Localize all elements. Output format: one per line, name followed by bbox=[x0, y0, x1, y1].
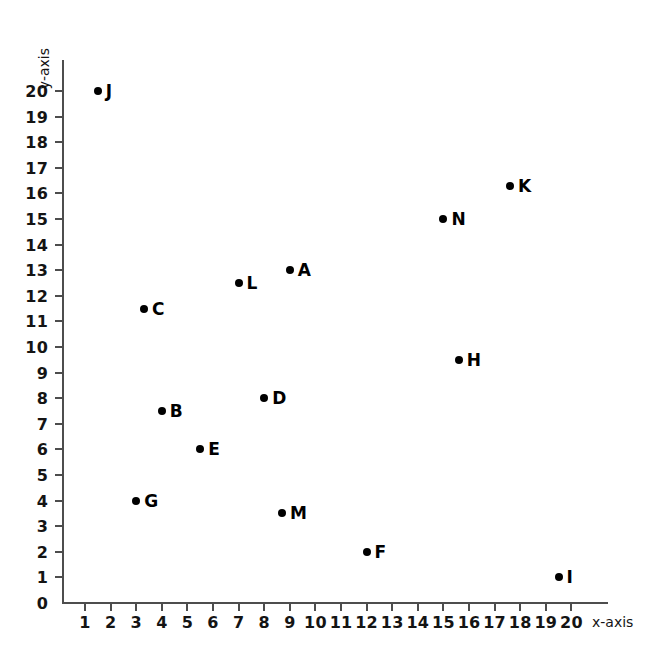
y-axis-tick bbox=[55, 346, 62, 348]
data-point-marker bbox=[506, 182, 514, 190]
x-axis-tick-label: 17 bbox=[483, 613, 506, 632]
x-axis-tick-label: 9 bbox=[284, 613, 295, 632]
x-axis-tick bbox=[468, 604, 470, 611]
x-axis-tick bbox=[135, 604, 137, 611]
y-axis-tick-label: 10 bbox=[25, 338, 48, 357]
x-axis-tick bbox=[570, 604, 572, 611]
y-axis-tick bbox=[55, 295, 62, 297]
data-point-l[interactable]: L bbox=[235, 279, 243, 287]
data-point-marker bbox=[132, 497, 140, 505]
data-point-marker bbox=[158, 407, 166, 415]
y-axis-tick-label: 15 bbox=[25, 210, 48, 229]
data-point-label: H bbox=[467, 349, 481, 369]
data-point-marker bbox=[94, 87, 102, 95]
data-point-k[interactable]: K bbox=[506, 182, 514, 190]
y-axis-tick bbox=[55, 141, 62, 143]
x-axis-tick-label: 1 bbox=[79, 613, 90, 632]
x-axis-tick bbox=[289, 604, 291, 611]
y-axis-tick bbox=[55, 167, 62, 169]
x-axis-tick-label: 15 bbox=[432, 613, 455, 632]
y-axis-tick-label: 4 bbox=[37, 491, 48, 510]
x-axis-tick-label: 13 bbox=[381, 613, 404, 632]
data-point-d[interactable]: D bbox=[260, 394, 268, 402]
y-axis-tick-label: 20 bbox=[25, 82, 48, 101]
data-point-marker bbox=[196, 445, 204, 453]
y-axis-tick-label: 7 bbox=[37, 414, 48, 433]
y-axis-tick bbox=[55, 372, 62, 374]
x-axis-tick bbox=[84, 604, 86, 611]
x-axis-tick-label: 12 bbox=[355, 613, 378, 632]
y-axis-tick-label: 18 bbox=[25, 133, 48, 152]
x-axis-tick bbox=[263, 604, 265, 611]
y-axis-tick bbox=[55, 423, 62, 425]
data-point-c[interactable]: C bbox=[140, 305, 148, 313]
x-axis-tick bbox=[545, 604, 547, 611]
x-axis-tick-label: 7 bbox=[233, 613, 244, 632]
y-axis-tick-label: 12 bbox=[25, 286, 48, 305]
data-point-marker bbox=[235, 279, 243, 287]
x-axis-tick-label: 8 bbox=[259, 613, 270, 632]
y-axis-tick bbox=[55, 474, 62, 476]
data-point-n[interactable]: N bbox=[439, 215, 447, 223]
y-axis-tick-label: 5 bbox=[37, 466, 48, 485]
y-axis-tick bbox=[55, 244, 62, 246]
y-axis-tick bbox=[55, 320, 62, 322]
x-axis-tick bbox=[442, 604, 444, 611]
x-axis-tick bbox=[110, 604, 112, 611]
y-axis-tick-label: 8 bbox=[37, 389, 48, 408]
scatter-plot-figure: y-axis x-axis 01234567891011121314151617… bbox=[0, 0, 661, 661]
data-point-label: G bbox=[144, 490, 158, 510]
data-point-m[interactable]: M bbox=[278, 509, 286, 517]
data-point-b[interactable]: B bbox=[158, 407, 166, 415]
y-axis-tick-label: 1 bbox=[37, 568, 48, 587]
x-axis-title: x-axis bbox=[592, 614, 633, 630]
data-point-label: A bbox=[298, 260, 311, 280]
y-axis-tick bbox=[55, 576, 62, 578]
data-point-a[interactable]: A bbox=[286, 266, 294, 274]
data-point-marker bbox=[455, 356, 463, 364]
data-point-g[interactable]: G bbox=[132, 497, 140, 505]
y-axis-tick bbox=[55, 116, 62, 118]
data-point-e[interactable]: E bbox=[196, 445, 204, 453]
x-axis-tick-label: 4 bbox=[156, 613, 167, 632]
y-axis-tick bbox=[55, 218, 62, 220]
x-axis-tick bbox=[186, 604, 188, 611]
data-point-label: B bbox=[170, 401, 183, 421]
data-point-label: I bbox=[567, 567, 574, 587]
data-point-marker bbox=[363, 548, 371, 556]
x-axis-tick bbox=[417, 604, 419, 611]
x-axis-tick-label: 10 bbox=[304, 613, 327, 632]
x-axis-tick-label: 2 bbox=[105, 613, 116, 632]
y-axis-tick bbox=[55, 90, 62, 92]
x-axis-tick-label: 5 bbox=[182, 613, 193, 632]
x-axis-tick bbox=[161, 604, 163, 611]
x-axis-tick-label: 18 bbox=[509, 613, 532, 632]
x-axis-tick-label: 6 bbox=[207, 613, 218, 632]
y-axis-tick-label: 13 bbox=[25, 261, 48, 280]
data-point-marker bbox=[260, 394, 268, 402]
y-axis-tick-label: 14 bbox=[25, 235, 48, 254]
x-axis-tick bbox=[314, 604, 316, 611]
data-point-label: N bbox=[451, 209, 465, 229]
x-axis-tick bbox=[494, 604, 496, 611]
data-point-label: F bbox=[375, 541, 387, 561]
data-point-f[interactable]: F bbox=[363, 548, 371, 556]
data-point-label: D bbox=[272, 388, 286, 408]
data-point-j[interactable]: J bbox=[94, 87, 102, 95]
data-point-i[interactable]: I bbox=[555, 573, 563, 581]
y-axis-tick-label: 19 bbox=[25, 107, 48, 126]
y-axis-tick bbox=[55, 551, 62, 553]
y-axis-tick-label: 2 bbox=[37, 542, 48, 561]
x-axis-tick bbox=[212, 604, 214, 611]
data-point-label: M bbox=[290, 503, 307, 523]
x-axis-tick bbox=[519, 604, 521, 611]
y-axis-tick-label: 16 bbox=[25, 184, 48, 203]
y-axis-tick-label: 17 bbox=[25, 158, 48, 177]
y-axis-tick-label: 11 bbox=[25, 312, 48, 331]
data-point-marker bbox=[278, 509, 286, 517]
x-axis-tick bbox=[340, 604, 342, 611]
x-axis-tick-label: 16 bbox=[458, 613, 481, 632]
data-point-h[interactable]: H bbox=[455, 356, 463, 364]
y-axis-tick bbox=[55, 448, 62, 450]
y-axis-tick bbox=[55, 192, 62, 194]
